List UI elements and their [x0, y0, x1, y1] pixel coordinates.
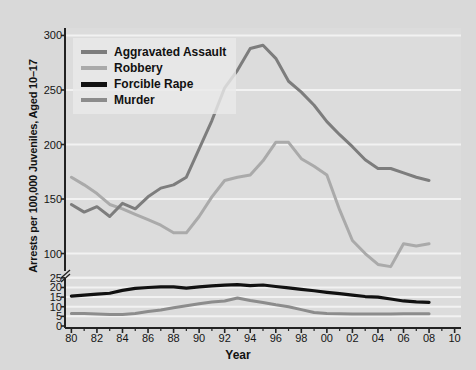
- legend-swatch-icon: [81, 66, 107, 70]
- legend-swatch-icon: [81, 82, 107, 87]
- y-tick-label: 300: [28, 29, 62, 41]
- x-tick-label: 94: [244, 332, 256, 344]
- x-tick-label: 90: [193, 332, 205, 344]
- legend-swatch-icon: [81, 50, 107, 54]
- x-tick-label: 10: [448, 332, 460, 344]
- x-tick-label: 80: [65, 332, 77, 344]
- y-tick-label: 100: [28, 248, 62, 260]
- legend-item[interactable]: Aggravated Assault: [81, 44, 226, 60]
- legend-label: Forcible Rape: [114, 76, 193, 92]
- chart-figure: Arrests per 100,000 Juveniles, Aged 10–1…: [0, 0, 476, 370]
- legend-label: Aggravated Assault: [114, 44, 226, 60]
- x-tick-label: 82: [91, 332, 103, 344]
- x-tick-label: 86: [142, 332, 154, 344]
- y-tick-label: 200: [28, 139, 62, 151]
- legend-item[interactable]: Forcible Rape: [81, 76, 226, 92]
- x-tick-label: 06: [397, 332, 409, 344]
- legend-item[interactable]: Murder: [81, 92, 226, 108]
- x-tick-label: 08: [423, 332, 435, 344]
- x-tick-label: 98: [295, 332, 307, 344]
- x-axis-tick-labels: 80828486889092949698000204060810: [65, 332, 461, 348]
- y-tick-label: 150: [28, 193, 62, 205]
- x-axis-title: Year: [0, 348, 476, 362]
- y-tick-label: 250: [28, 84, 62, 96]
- x-tick-label: 00: [321, 332, 333, 344]
- legend-label: Murder: [114, 92, 155, 108]
- legend-item[interactable]: Robbery: [81, 60, 226, 76]
- chart-legend: Aggravated AssaultRobberyForcible RapeMu…: [73, 38, 236, 114]
- x-tick-label: 84: [116, 332, 128, 344]
- x-tick-label: 88: [167, 332, 179, 344]
- y-tick-label: 0: [28, 320, 62, 332]
- legend-swatch-icon: [81, 98, 107, 102]
- x-tick-label: 96: [270, 332, 282, 344]
- x-tick-label: 04: [372, 332, 384, 344]
- x-tick-label: 92: [219, 332, 231, 344]
- legend-label: Robbery: [114, 60, 163, 76]
- y-axis-tick-labels: 3002502001501002520151050: [22, 28, 62, 328]
- x-tick-label: 02: [346, 332, 358, 344]
